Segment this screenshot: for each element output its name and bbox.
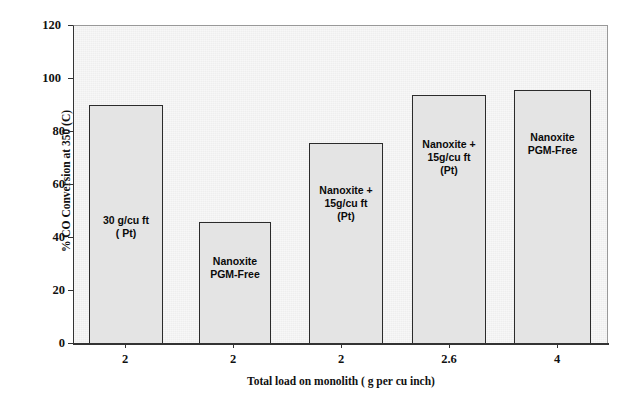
bar-1-label-line-1: 30 g/cu ft xyxy=(90,214,162,227)
x-tick-label-5: 4 xyxy=(554,352,560,367)
bar-2-label-line-2: PGM-Free xyxy=(200,268,270,281)
x-tick-mark-2 xyxy=(233,343,234,348)
bar-5-label-line-2: PGM-Free xyxy=(515,144,590,157)
bar-2-label-line-1: Nanoxite xyxy=(200,255,270,268)
x-tick-mark-5 xyxy=(557,343,558,348)
bar-3-label-line-2: 15g/cu ft xyxy=(310,197,382,210)
x-tick-label-2: 2 xyxy=(230,352,236,367)
bar-1[interactable]: 30 g/cu ft ( Pt) xyxy=(89,105,163,344)
x-tick-label-3: 2 xyxy=(338,352,344,367)
bar-4-label-line-2: 15g/cu ft xyxy=(413,151,485,164)
bar-3-label-line-3: (Pt) xyxy=(310,210,382,223)
bar-5-label-line-1: Nanoxite xyxy=(515,131,590,144)
bar-2[interactable]: Nanoxite PGM-Free xyxy=(199,222,271,344)
x-tick-label-4: 2.6 xyxy=(441,352,457,367)
y-tick-label-20: 20 xyxy=(31,283,65,298)
x-axis-title: Total load on monolith ( g per cu inch) xyxy=(73,375,609,387)
y-tick-label-40: 40 xyxy=(31,230,65,245)
y-tick-label-120: 120 xyxy=(27,18,61,33)
x-tick-mark-4 xyxy=(449,343,450,348)
bar-5-label: Nanoxite PGM-Free xyxy=(515,131,590,157)
bar-chart-figure: % CO Conversion at 350 (C) 0 20 40 60 80… xyxy=(0,0,629,412)
bar-5[interactable]: Nanoxite PGM-Free xyxy=(514,90,591,344)
bar-4-label-line-3: (Pt) xyxy=(413,164,485,177)
bar-4-label-line-1: Nanoxite + xyxy=(413,138,485,151)
y-tick-label-0: 0 xyxy=(31,336,65,351)
bar-1-label: 30 g/cu ft ( Pt) xyxy=(90,214,162,240)
bar-1-label-line-2: ( Pt) xyxy=(90,227,162,240)
y-tick-label-80: 80 xyxy=(31,124,65,139)
plot-area: 30 g/cu ft ( Pt) Nanoxite PGM-Free Nanox… xyxy=(73,25,608,343)
y-tick-label-100: 100 xyxy=(27,71,61,86)
bar-3-label: Nanoxite + 15g/cu ft (Pt) xyxy=(310,184,382,223)
y-tick-label-60: 60 xyxy=(31,177,65,192)
x-tick-label-1: 2 xyxy=(122,352,128,367)
x-tick-mark-1 xyxy=(125,343,126,348)
x-tick-mark-3 xyxy=(341,343,342,348)
bar-2-label: Nanoxite PGM-Free xyxy=(200,255,270,281)
bar-3[interactable]: Nanoxite + 15g/cu ft (Pt) xyxy=(309,143,383,344)
bar-4[interactable]: Nanoxite + 15g/cu ft (Pt) xyxy=(412,95,486,344)
bar-3-label-line-1: Nanoxite + xyxy=(310,184,382,197)
bar-4-label: Nanoxite + 15g/cu ft (Pt) xyxy=(413,138,485,177)
